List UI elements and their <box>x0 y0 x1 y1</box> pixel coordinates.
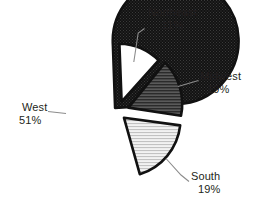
slice-label-west-name: West <box>19 101 47 114</box>
slice-label-midwest-value: 19% <box>200 83 241 96</box>
slice-label-west: West 51% <box>19 101 47 126</box>
slice-label-midwest-name: Midwest <box>200 70 241 83</box>
leader-line-south <box>166 159 189 182</box>
slice-label-northeast-value: 11% <box>148 19 197 32</box>
pie-slice-south <box>124 118 180 174</box>
leader-line-west <box>48 112 66 114</box>
pie-chart: Northeast 11% Midwest 19% South 19% West… <box>0 0 261 214</box>
slice-label-south: South 19% <box>191 170 220 195</box>
slice-label-south-value: 19% <box>191 183 220 196</box>
slice-label-northeast: Northeast 11% <box>148 6 197 31</box>
slice-label-west-value: 51% <box>19 114 47 127</box>
slice-label-northeast-name: Northeast <box>148 6 197 19</box>
slice-label-midwest: Midwest 19% <box>200 70 241 95</box>
slice-label-south-name: South <box>191 170 220 183</box>
